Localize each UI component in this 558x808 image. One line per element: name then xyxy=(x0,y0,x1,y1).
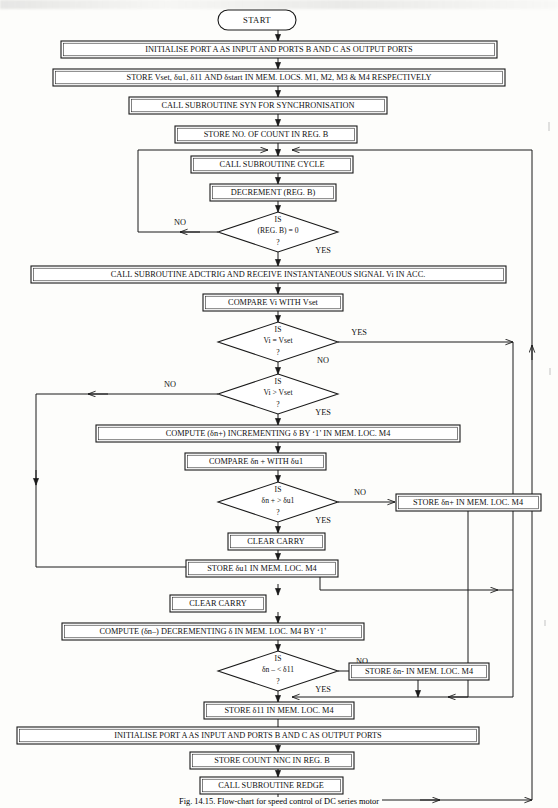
node-store-count: STORE NO. OF COUNT IN REG. B xyxy=(175,126,357,143)
node-store-consts: STORE Vset, δu1, δ11 AND δstart IN MEM. … xyxy=(53,69,505,86)
node-decrement-label: DECREMENT (REG. B) xyxy=(231,188,316,197)
node-compare-vi-label: COMPARE Vi WITH Vset xyxy=(228,298,318,307)
node-call-syn-label: CALL SUBROUTINE SYN FOR SYNCHRONISATION xyxy=(162,101,355,110)
node-store-dnm: STORE δn- IN MEM. LOC. M4 xyxy=(349,663,489,680)
node-call-cycle: CALL SUBROUTINE CYCLE xyxy=(191,156,353,173)
node-call-syn: CALL SUBROUTINE SYN FOR SYNCHRONISATION xyxy=(129,97,387,114)
node-store-dnp-label: STORE δn+ IN MEM. LOC. M4 xyxy=(413,498,524,507)
node-store-nnc-label: STORE COUNT NNC IN REG. B xyxy=(214,756,330,765)
decision-regb-line1: IS xyxy=(275,215,282,224)
decision-dngt-line1: IS xyxy=(275,485,282,494)
node-decrement: DECREMENT (REG. B) xyxy=(210,184,336,201)
edge-dvigt-no-loop xyxy=(36,394,218,567)
node-clear-carry-1: CLEAR CARRY xyxy=(228,533,325,550)
node-clear-carry-2-label: CLEAR CARRY xyxy=(189,599,246,608)
figure-caption: Fig. 14.15. Flow-chart for speed control… xyxy=(176,797,382,806)
decision-vieq-line2: Vi = Vset xyxy=(264,336,294,345)
node-call-adctrig: CALL SUBROUTINE ADCTRIG AND RECEIVE INST… xyxy=(31,266,506,283)
node-compare-dn-u-label: COMPARE δn + WITH δu1 xyxy=(209,457,303,466)
node-compute-inc-label: COMPUTE (δn+) INCREMENTING δ BY ‘1’ IN M… xyxy=(166,429,392,438)
node-store-nnc: STORE COUNT NNC IN REG. B xyxy=(190,752,354,769)
decision-regb-line2: (REG. B) = 0 xyxy=(258,226,299,235)
decision-dngt-line2: δn + > δu1 xyxy=(262,496,295,505)
node-init1: INITIALISE PORT A AS INPUT AND PORTS B A… xyxy=(61,41,497,58)
node-store-dnm-label: STORE δn- IN MEM. LOC. M4 xyxy=(365,667,474,676)
edge-label-regb-yes: YES xyxy=(315,246,331,255)
decision-dnlt-line2: δn – < δ11 xyxy=(262,665,294,674)
edge-label-dngt-no: NO xyxy=(354,488,366,497)
node-init2-label: INITIALISE PORT A AS INPUT AND PORTS B A… xyxy=(114,731,382,740)
node-store-consts-label: STORE Vset, δu1, δ11 AND δstart IN MEM. … xyxy=(127,73,432,82)
edge-label-dnlt-yes: YES xyxy=(315,685,331,694)
node-clear-carry-2: CLEAR CARRY xyxy=(170,595,266,612)
edge-label-vigt-no: NO xyxy=(164,380,176,389)
edge-label-vieq-no: NO xyxy=(317,356,329,365)
node-store-dnp: STORE δn+ IN MEM. LOC. M4 xyxy=(396,494,541,511)
node-compare-dn-u: COMPARE δn + WITH δu1 xyxy=(185,453,326,470)
decision-dnlt-line1: IS xyxy=(275,654,282,663)
node-store-d11: STORE δ11 IN MEM. LOC. M4 xyxy=(204,702,354,719)
decision-vigt-line1: IS xyxy=(275,377,282,386)
node-init1-label: INITIALISE PORT A AS INPUT AND PORTS B A… xyxy=(145,45,413,54)
node-compute-dec-label: COMPUTE (δn–) DECREMENTING δ IN MEM. LOC… xyxy=(99,627,326,636)
edge-storedu1-right xyxy=(320,577,498,590)
edge-label-vieq-yes: YES xyxy=(351,328,367,337)
node-start-label: START xyxy=(243,15,271,25)
node-store-du1: STORE δu1 IN MEM. LOC. M4 xyxy=(186,560,338,577)
decision-vieq-line1: IS xyxy=(275,325,282,334)
node-store-d11-label: STORE δ11 IN MEM. LOC. M4 xyxy=(224,706,334,715)
node-call-redge-label: CALL SUBROUTINE REDGE xyxy=(218,781,324,790)
edge-label-vigt-yes: YES xyxy=(315,408,331,417)
node-compute-dec: COMPUTE (δn–) DECREMENTING δ IN MEM. LOC… xyxy=(62,623,364,640)
node-compute-inc: COMPUTE (δn+) INCREMENTING δ BY ‘1’ IN M… xyxy=(96,425,460,442)
node-compare-vi: COMPARE Vi WITH Vset xyxy=(203,294,343,311)
node-clear-carry-1-label: CLEAR CARRY xyxy=(247,537,304,546)
node-call-cycle-label: CALL SUBROUTINE CYCLE xyxy=(219,160,324,169)
node-store-count-label: STORE NO. OF COUNT IN REG. B xyxy=(204,130,329,139)
node-store-du1-label: STORE δu1 IN MEM. LOC. M4 xyxy=(207,564,317,573)
node-call-adctrig-label: CALL SUBROUTINE ADCTRIG AND RECEIVE INST… xyxy=(111,270,426,279)
decision-vigt-line2: Vi > Vset xyxy=(264,388,294,397)
edge-label-regb-no: NO xyxy=(174,218,186,227)
edge-label-dngt-yes: YES xyxy=(315,516,331,525)
node-init2: INITIALISE PORT A AS INPUT AND PORTS B A… xyxy=(17,727,479,744)
node-start: START xyxy=(218,10,296,30)
